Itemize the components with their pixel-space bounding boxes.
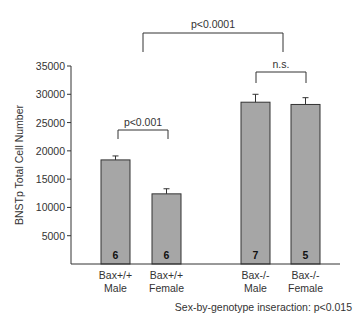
y-axis-label: BNSTp Total Cell Number bbox=[13, 104, 25, 225]
sample-size-label: 5 bbox=[303, 249, 309, 261]
sample-size-label: 7 bbox=[253, 249, 259, 261]
sig-label-wildtype: p<0.001 bbox=[124, 116, 162, 128]
bracket-wildtype: p<0.001 bbox=[118, 116, 168, 139]
bracket-overall: p<0.0001 bbox=[143, 18, 283, 52]
bar-chart: BNSTp Total Cell Number 5000100001500020… bbox=[0, 0, 354, 316]
y-tick-label: 5000 bbox=[42, 230, 66, 242]
bar-group: 6 bbox=[152, 189, 181, 264]
category-sublabel: Male bbox=[244, 282, 267, 294]
category-sublabel: Male bbox=[104, 282, 127, 294]
y-tick-label: 20000 bbox=[36, 145, 65, 157]
bar-group: 6 bbox=[101, 156, 130, 264]
bar-group: 5 bbox=[291, 98, 320, 264]
category-label: Bax-/- bbox=[291, 269, 320, 281]
category-label: Bax-/- bbox=[241, 269, 270, 281]
sig-label-overall: p<0.0001 bbox=[191, 18, 235, 30]
bar bbox=[291, 104, 320, 264]
y-tick-label: 15000 bbox=[36, 173, 65, 185]
sample-size-label: 6 bbox=[164, 249, 170, 261]
category-sublabel: Female bbox=[288, 282, 323, 294]
y-axis: 5000100001500020000250003000035000 bbox=[36, 60, 71, 264]
sample-size-label: 6 bbox=[113, 249, 119, 261]
interaction-footnote: Sex-by-genotype inseraction: p<0.015 bbox=[175, 301, 352, 313]
category-label: Bax+/+ bbox=[99, 269, 132, 281]
bar-group: 7 bbox=[241, 94, 270, 264]
category-sublabel: Female bbox=[149, 282, 184, 294]
bar bbox=[241, 102, 270, 264]
category-label: Bax+/+ bbox=[150, 269, 183, 281]
bracket-knockout: n.s. bbox=[256, 58, 306, 83]
sig-label-knockout: n.s. bbox=[273, 58, 290, 70]
y-tick-label: 30000 bbox=[36, 88, 65, 100]
y-tick-label: 25000 bbox=[36, 117, 65, 129]
x-axis: Bax+/+MaleBax+/+FemaleBax-/-MaleBax-/-Fe… bbox=[71, 264, 340, 294]
y-tick-label: 10000 bbox=[36, 201, 65, 213]
y-tick-label: 35000 bbox=[36, 60, 65, 72]
